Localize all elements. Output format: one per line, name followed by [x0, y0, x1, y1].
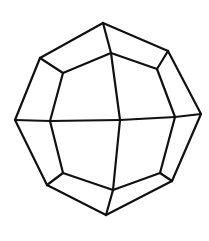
edge-inner_left-center: [50, 120, 120, 121]
edge-left-inner_left: [15, 120, 50, 121]
polyhedron-diagram: [0, 0, 209, 241]
